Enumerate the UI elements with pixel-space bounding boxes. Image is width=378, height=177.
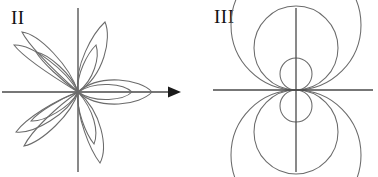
rose-curve-inner bbox=[31, 45, 132, 144]
petal-outer bbox=[16, 92, 78, 132]
figure-iii-plot bbox=[189, 0, 378, 177]
figure-ii-plot bbox=[0, 0, 189, 177]
petal-outer bbox=[22, 32, 78, 92]
figure-ii-axes bbox=[2, 8, 181, 172]
figure-ii: II bbox=[0, 0, 189, 177]
x-axis-arrowhead-icon bbox=[168, 87, 181, 98]
figure-iii: III bbox=[189, 0, 378, 177]
petal-outer bbox=[77, 22, 107, 92]
diagram-page: II bbox=[0, 0, 378, 177]
figure-iii-axes bbox=[213, 8, 373, 172]
